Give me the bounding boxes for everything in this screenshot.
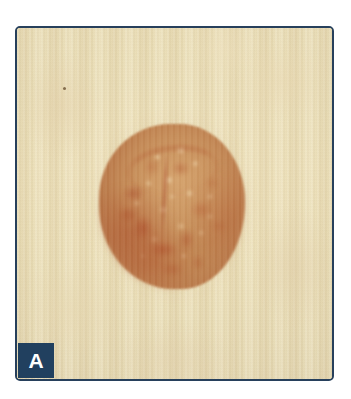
figure-root: A xyxy=(0,0,351,399)
skin-freckle-dot xyxy=(63,87,66,90)
lesion-striation-overlay xyxy=(99,124,245,289)
photo-frame: A xyxy=(15,26,334,381)
panel-label-text: A xyxy=(28,350,43,371)
skin-lesion xyxy=(99,124,245,289)
panel-label-badge: A xyxy=(18,343,54,378)
